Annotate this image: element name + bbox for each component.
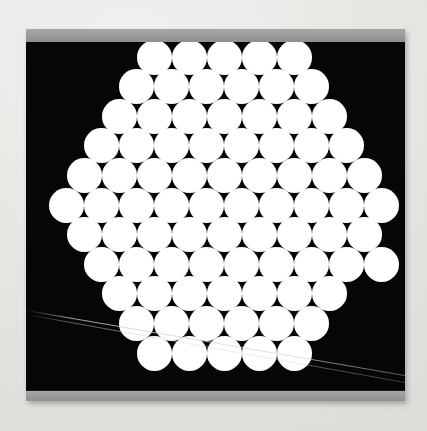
fiber-circle bbox=[259, 306, 294, 341]
bottom-clamp-bar bbox=[26, 390, 405, 401]
fiber-circle bbox=[119, 306, 154, 341]
fiber-circle bbox=[189, 306, 224, 341]
fiber-circle bbox=[242, 336, 277, 371]
fiber-packing-layer bbox=[26, 42, 405, 391]
dark-field bbox=[26, 42, 405, 391]
specimen-frame bbox=[26, 29, 405, 401]
fiber-circle bbox=[277, 336, 312, 371]
fiber-circle bbox=[224, 306, 259, 341]
fiber-circle bbox=[294, 306, 329, 341]
image-canvas bbox=[0, 0, 427, 431]
top-clamp-bar bbox=[26, 29, 405, 43]
fiber-circle bbox=[154, 306, 189, 341]
fiber-circle bbox=[137, 336, 172, 371]
fiber-circle bbox=[172, 336, 207, 371]
fiber-circle bbox=[364, 247, 399, 282]
fiber-circle bbox=[207, 336, 242, 371]
